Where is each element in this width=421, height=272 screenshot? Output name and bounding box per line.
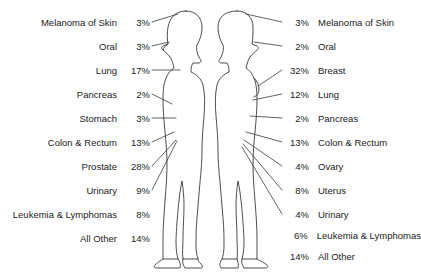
male-site-label: Stomach bbox=[80, 113, 118, 124]
female-site-label: Oral bbox=[318, 41, 336, 52]
female-site-label: Ovary bbox=[318, 161, 343, 172]
male-row-urinary: Urinary 9% bbox=[0, 183, 150, 197]
male-row-oral: Oral 3% bbox=[0, 39, 150, 53]
male-label-column: Melanoma of Skin 3% Oral 3% Lung 17% Pan… bbox=[0, 0, 160, 272]
female-row-pancreas: 2% Pancreas bbox=[285, 111, 421, 125]
female-percent-value: 12% bbox=[285, 89, 309, 100]
male-percent-value: 28% bbox=[124, 161, 150, 172]
female-site-label: Lung bbox=[318, 89, 339, 100]
female-site-label: Leukemia & Lymphomas bbox=[317, 230, 421, 241]
male-percent-value: 3% bbox=[124, 113, 150, 124]
female-foot-right bbox=[242, 259, 268, 268]
female-body-outline bbox=[215, 11, 258, 259]
male-percent-value: 14% bbox=[124, 233, 150, 244]
male-percent-value: 13% bbox=[124, 137, 150, 148]
female-foot-left bbox=[220, 259, 239, 268]
male-percent-value: 8% bbox=[124, 209, 150, 220]
male-row-all-other: All Other 14% bbox=[0, 231, 150, 245]
male-row-lung: Lung 17% bbox=[0, 63, 150, 77]
male-site-label: Pancreas bbox=[77, 89, 117, 100]
male-percent-value: 9% bbox=[124, 185, 150, 196]
male-row-leukemia-and-lymphomas: Leukemia & Lymphomas 8% bbox=[0, 207, 150, 221]
female-percent-value: 32% bbox=[285, 65, 309, 76]
female-percent-value: 3% bbox=[285, 17, 309, 28]
female-site-label: Urinary bbox=[318, 209, 349, 220]
female-row-melanoma-of-skin: 3% Melanoma of Skin bbox=[285, 15, 421, 29]
male-percent-value: 3% bbox=[124, 41, 150, 52]
female-site-label: Colon & Rectum bbox=[318, 137, 387, 148]
female-percent-value: 13% bbox=[285, 137, 309, 148]
male-row-stomach: Stomach 3% bbox=[0, 111, 150, 125]
female-percent-value: 8% bbox=[285, 185, 309, 196]
leader-female-breast bbox=[258, 70, 282, 86]
leader-female-oral bbox=[254, 42, 282, 46]
male-percent-value: 3% bbox=[124, 17, 150, 28]
female-row-colon-and-rectum: 13% Colon & Rectum bbox=[285, 135, 421, 149]
male-site-label: All Other bbox=[80, 233, 117, 244]
leader-female-colon-rectum bbox=[246, 132, 282, 142]
male-site-label: Leukemia & Lymphomas bbox=[13, 209, 117, 220]
female-site-label: Uterus bbox=[318, 185, 346, 196]
female-percent-value: 4% bbox=[285, 209, 309, 220]
female-percent-value: 2% bbox=[285, 113, 309, 124]
leader-female-melanoma bbox=[246, 14, 282, 22]
female-row-leukemia-and-lymphomas: 6% Leukemia & Lymphomas bbox=[285, 228, 421, 242]
male-row-prostate: Prostate 28% bbox=[0, 159, 150, 173]
female-row-urinary: 4% Urinary bbox=[285, 207, 421, 221]
male-site-label: Colon & Rectum bbox=[48, 137, 117, 148]
leader-female-uterus bbox=[243, 144, 282, 190]
female-row-ovary: 4% Ovary bbox=[285, 159, 421, 173]
male-row-pancreas: Pancreas 2% bbox=[0, 87, 150, 101]
female-row-lung: 12% Lung bbox=[285, 87, 421, 101]
male-body-outline bbox=[162, 11, 205, 259]
female-site-label: Breast bbox=[318, 65, 345, 76]
male-foot-right bbox=[183, 259, 203, 268]
leader-female-urinary bbox=[242, 147, 282, 214]
male-percent-value: 2% bbox=[124, 89, 150, 100]
male-site-label: Lung bbox=[96, 65, 117, 76]
male-site-label: Oral bbox=[99, 41, 117, 52]
male-site-label: Urinary bbox=[86, 185, 117, 196]
female-leader-lines bbox=[242, 14, 282, 214]
female-percent-value: 6% bbox=[285, 230, 308, 241]
female-percent-value: 4% bbox=[285, 161, 309, 172]
male-row-colon-and-rectum: Colon & Rectum 13% bbox=[0, 135, 150, 149]
leader-female-ovary bbox=[244, 140, 282, 166]
male-row-melanoma-of-skin: Melanoma of Skin 3% bbox=[0, 15, 150, 29]
female-percent-value: 2% bbox=[285, 41, 309, 52]
female-site-label: Melanoma of Skin bbox=[318, 17, 394, 28]
male-percent-value: 17% bbox=[124, 65, 150, 76]
female-percent-value: 14% bbox=[285, 251, 309, 262]
male-site-label: Melanoma of Skin bbox=[41, 17, 117, 28]
female-row-breast: 32% Breast bbox=[285, 63, 421, 77]
female-label-column: 3% Melanoma of Skin 2% Oral 32% Breast 1… bbox=[285, 0, 421, 272]
female-row-uterus: 8% Uterus bbox=[285, 183, 421, 197]
female-row-all-other: 14% All Other bbox=[285, 249, 421, 263]
female-row-oral: 2% Oral bbox=[285, 39, 421, 53]
cancer-incidence-diagram: Melanoma of Skin 3% Oral 3% Lung 17% Pan… bbox=[0, 0, 421, 272]
leader-female-pancreas bbox=[250, 116, 282, 118]
female-site-label: Pancreas bbox=[318, 113, 358, 124]
male-face-notch bbox=[163, 44, 168, 50]
male-site-label: Prostate bbox=[82, 161, 117, 172]
leader-female-lung bbox=[253, 94, 282, 100]
female-site-label: All Other bbox=[318, 251, 355, 262]
female-breast-contour bbox=[254, 78, 259, 97]
